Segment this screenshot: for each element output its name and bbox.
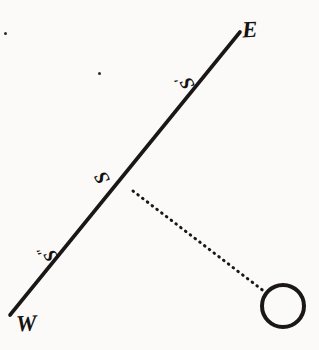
scan-speck-upper-left [4, 32, 7, 35]
label-west: W [15, 311, 37, 335]
celestial-body-circle [262, 285, 304, 327]
figure-root: E W S S′ S″ [0, 0, 319, 350]
horizon-line [10, 32, 240, 315]
sight-ray-dotted-line [133, 191, 265, 292]
diagram-canvas [0, 0, 319, 350]
label-east: E [241, 18, 258, 42]
scan-speck-upper-mid [98, 72, 101, 75]
